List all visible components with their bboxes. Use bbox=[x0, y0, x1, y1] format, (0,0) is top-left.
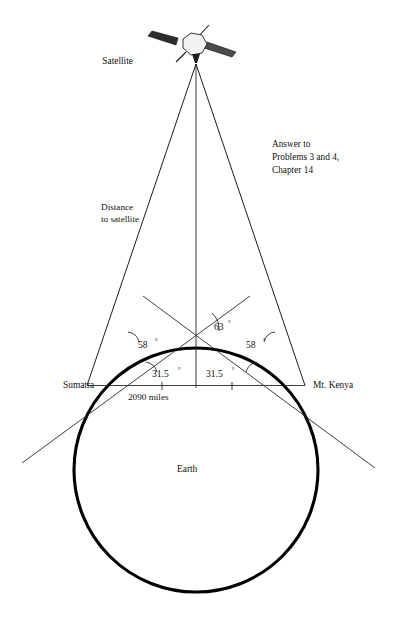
right-station-label: Mt. Kenya bbox=[313, 380, 354, 390]
angle-left-58-degree-symbol: ° bbox=[155, 337, 158, 344]
distance-label-line-1: Distance bbox=[101, 202, 133, 212]
angle-base-right-value: 31.5 bbox=[206, 368, 223, 379]
angle-right-58-degree-symbol: ° bbox=[263, 337, 266, 344]
note-line-2: Problems 3 and 4, bbox=[272, 152, 339, 162]
baseline-label: 2090 miles bbox=[128, 392, 169, 402]
satellite-label: Satellite bbox=[102, 56, 133, 66]
angle-apex-63-value: 63 bbox=[214, 321, 224, 332]
diagram-canvas: Satellite Answer to Problems 3 and 4, Ch… bbox=[0, 0, 409, 624]
satellite-nadir-horn bbox=[192, 54, 200, 63]
distance-label-line-2: to satellite bbox=[101, 214, 139, 224]
left-station-label: Sumatra bbox=[63, 380, 95, 390]
satellite-panel-lower-right bbox=[204, 42, 236, 57]
angle-left-58-value: 58 bbox=[138, 339, 148, 350]
satellite-geometry-figure: Satellite Answer to Problems 3 and 4, Ch… bbox=[0, 0, 409, 624]
sight-line-right bbox=[196, 64, 305, 386]
note-line-1: Answer to bbox=[272, 139, 311, 149]
angle-base-right-degree-symbol: ° bbox=[232, 366, 235, 373]
angle-base-left-value: 31.5 bbox=[152, 368, 169, 379]
sight-line-left bbox=[87, 64, 196, 386]
satellite-panel-upper-left bbox=[148, 31, 178, 45]
angle-apex-63-degree-symbol: ° bbox=[228, 319, 231, 326]
earth-label: Earth bbox=[177, 464, 198, 474]
note-line-3: Chapter 14 bbox=[272, 165, 313, 175]
angle-right-58-value: 58 bbox=[246, 339, 256, 350]
satellite-boom-lower bbox=[176, 52, 186, 62]
satellite-icon bbox=[148, 25, 236, 63]
satellite-body bbox=[183, 33, 207, 55]
angle-arc-right-58 bbox=[264, 332, 275, 342]
angle-base-left-degree-symbol: ° bbox=[178, 366, 181, 373]
